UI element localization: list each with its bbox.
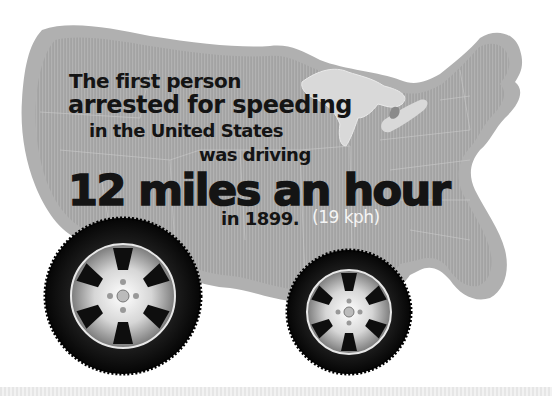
headline-line-3: in the United States	[89, 120, 283, 141]
infographic: The first person arrested for speeding i…	[0, 0, 552, 396]
year-text: in 1899.	[221, 208, 299, 229]
kph-conversion: (19 kph)	[312, 207, 380, 227]
headline-line-2: arrested for speeding	[68, 91, 352, 119]
bottom-divider	[0, 387, 552, 396]
headline-line-4: was driving	[199, 144, 311, 165]
left-wheel	[45, 218, 201, 374]
right-wheel	[287, 250, 411, 374]
headline-line-1: The first person	[69, 69, 241, 93]
